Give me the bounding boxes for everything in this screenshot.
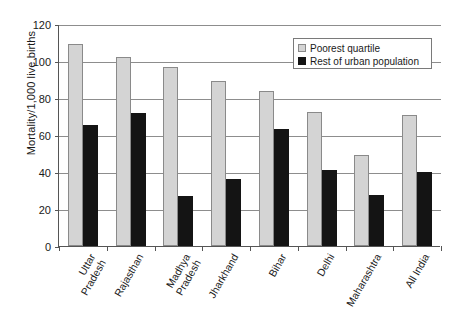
- x-tick-mark: [202, 246, 203, 251]
- x-tick-mark: [250, 246, 251, 251]
- legend: Poorest quartile Rest of urban populatio…: [293, 38, 432, 69]
- bar: [178, 196, 193, 246]
- bar: [307, 112, 322, 246]
- y-tick-mark: [55, 99, 59, 100]
- y-tick-mark: [55, 173, 59, 174]
- x-tick-mark: [155, 246, 156, 251]
- bar: [417, 172, 432, 246]
- gridline: [59, 25, 441, 26]
- x-category-label: All India: [377, 252, 432, 334]
- x-tick-mark: [298, 246, 299, 251]
- x-category-label: Delhi: [282, 252, 337, 334]
- x-category-label: Bihar: [234, 252, 289, 334]
- legend-item-poorest-quartile: Poorest quartile: [298, 42, 427, 54]
- y-axis-title: Mortality/1,000 live births: [22, 0, 40, 218]
- x-tick-mark: [346, 246, 347, 251]
- bar: [274, 129, 289, 246]
- y-tick-label: 0: [25, 242, 51, 252]
- legend-swatch-icon-rest: [298, 57, 306, 65]
- bar: [369, 195, 384, 246]
- y-tick-mark: [55, 62, 59, 63]
- bar: [402, 115, 417, 246]
- x-tick-mark: [107, 246, 108, 251]
- bar: [322, 170, 337, 246]
- y-tick-mark: [55, 136, 59, 137]
- y-tick-label: 20: [25, 205, 51, 215]
- x-tick-mark: [441, 246, 442, 251]
- bar: [163, 67, 178, 246]
- bar: [226, 179, 241, 246]
- x-tick-mark: [393, 246, 394, 251]
- y-tick-label: 120: [25, 20, 51, 30]
- legend-label-rest: Rest of urban population: [310, 56, 419, 67]
- y-tick-mark: [55, 25, 59, 26]
- legend-label-poorest: Poorest quartile: [310, 43, 380, 54]
- bar: [68, 44, 83, 246]
- y-tick-label: 60: [25, 131, 51, 141]
- x-tick-mark: [59, 246, 60, 251]
- bar: [116, 57, 131, 246]
- legend-swatch-icon-poorest: [298, 44, 306, 52]
- bar-chart: Mortality/1,000 live births 020406080100…: [0, 0, 460, 334]
- x-category-label: Maharashtra: [329, 252, 384, 334]
- y-tick-label: 40: [25, 168, 51, 178]
- y-tick-label: 100: [25, 57, 51, 67]
- bar: [259, 91, 274, 246]
- bar: [354, 155, 369, 246]
- bar: [83, 125, 98, 246]
- legend-item-rest-of-urban-population: Rest of urban population: [298, 55, 427, 67]
- bar: [211, 81, 226, 246]
- y-tick-mark: [55, 210, 59, 211]
- bar: [131, 113, 146, 246]
- y-tick-label: 80: [25, 94, 51, 104]
